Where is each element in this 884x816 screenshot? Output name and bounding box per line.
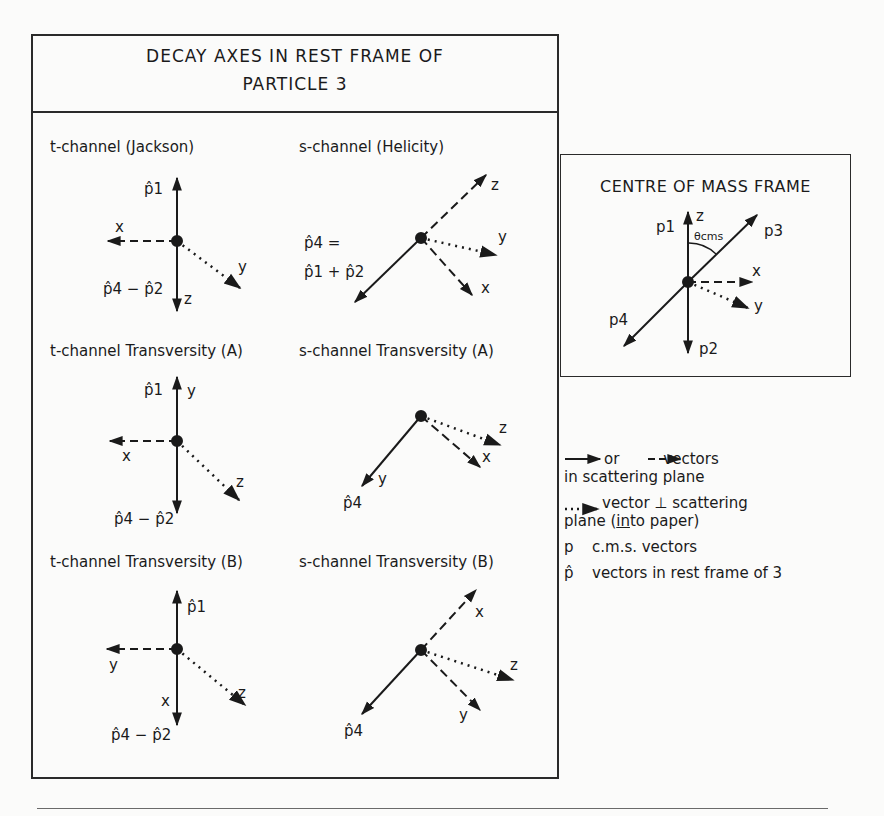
label-x: x bbox=[481, 279, 490, 297]
label-p4-equals: p̂4 = bbox=[304, 234, 340, 252]
label-x: x bbox=[752, 262, 761, 280]
label-z: z bbox=[510, 656, 518, 674]
y-solid-arrow-icon bbox=[362, 416, 421, 486]
p4-solid-arrow-icon bbox=[362, 650, 421, 714]
label-p4: p̂4 bbox=[344, 722, 363, 740]
y-dotted-arrow-icon bbox=[421, 238, 496, 255]
origin-dot-icon bbox=[683, 277, 693, 287]
legend-p-symbol: p bbox=[564, 538, 592, 556]
label-z: z bbox=[696, 207, 704, 225]
legend-vector-perp: vector ⊥ scattering bbox=[602, 494, 748, 512]
x-dashed-arrow-icon bbox=[421, 416, 480, 467]
label-z: z bbox=[491, 176, 499, 194]
legend-rest-frame-vectors: vectors in rest frame of 3 bbox=[592, 564, 782, 582]
label-y: y bbox=[378, 470, 387, 488]
cm-axes bbox=[624, 212, 757, 353]
label-p4: p4 bbox=[609, 311, 628, 329]
label-x: x bbox=[482, 448, 491, 466]
label-p1-plus-p2: p̂1 + p̂2 bbox=[304, 263, 364, 281]
label-p1: p̂1 bbox=[144, 381, 163, 399]
y-dotted-arrow-icon bbox=[177, 241, 240, 288]
t-transversity-b-axes bbox=[107, 591, 245, 725]
legend-in-underlined: in bbox=[616, 512, 630, 530]
x-dashed-arrow-icon bbox=[421, 238, 472, 295]
z-dotted-arrow-icon bbox=[421, 416, 500, 445]
s-helicity-axes bbox=[355, 175, 496, 302]
bottom-rule bbox=[37, 808, 828, 809]
y-dotted-arrow-icon bbox=[688, 282, 748, 308]
legend-plane-pre: plane ( bbox=[564, 512, 616, 530]
label-p2: p2 bbox=[699, 340, 718, 358]
legend-row-rest-frame: p̂vectors in rest frame of 3 bbox=[564, 564, 864, 582]
y-dashed-arrow-icon bbox=[421, 650, 480, 710]
origin-dot-icon bbox=[416, 233, 426, 243]
s-transversity-b-axes bbox=[362, 590, 513, 714]
label-p1: p̂1 bbox=[187, 598, 206, 616]
legend-plane-post: to paper) bbox=[630, 512, 699, 530]
p4-solid-arrow-icon bbox=[355, 238, 421, 302]
label-p4-minus-p2: p̂4 − p̂2 bbox=[111, 726, 171, 744]
z-dotted-arrow-icon bbox=[177, 441, 239, 500]
label-p4-minus-p2: p̂4 − p̂2 bbox=[103, 280, 163, 298]
label-z: z bbox=[499, 419, 507, 437]
z-dotted-arrow-icon bbox=[177, 649, 245, 705]
label-x: x bbox=[122, 447, 131, 465]
legend-phat-symbol: p̂ bbox=[564, 564, 592, 582]
label-p4: p̂4 bbox=[343, 494, 362, 512]
origin-dot-icon bbox=[172, 436, 182, 446]
label-p3: p3 bbox=[764, 222, 783, 240]
p3-arrow-icon bbox=[688, 215, 757, 282]
t-transversity-a-axes bbox=[110, 377, 239, 513]
origin-dot-icon bbox=[172, 644, 182, 654]
label-p4-minus-p2: p̂4 − p̂2 bbox=[114, 510, 174, 528]
label-x: x bbox=[161, 692, 170, 710]
label-z: z bbox=[184, 290, 192, 308]
legend-in-scattering-plane: in scattering plane bbox=[564, 468, 704, 486]
label-y: y bbox=[109, 656, 118, 674]
label-y: y bbox=[238, 258, 247, 276]
label-theta-cms: θcms bbox=[694, 230, 723, 243]
legend-or: or bbox=[604, 450, 619, 468]
label-y: y bbox=[187, 382, 196, 400]
label-y: y bbox=[754, 297, 763, 315]
label-y: y bbox=[498, 228, 507, 246]
origin-dot-icon bbox=[416, 645, 426, 655]
label-x: x bbox=[475, 603, 484, 621]
legend-row-cms: pc.m.s. vectors bbox=[564, 538, 864, 556]
legend-vectors: vectors bbox=[663, 450, 718, 468]
p4-arrow-icon bbox=[624, 282, 688, 346]
legend-row-in-plane: orvectors in scattering plane bbox=[564, 450, 864, 486]
vector-diagrams: p̂1 x y z p̂4 − p̂2 z y x p̂4 = p̂1 + p̂… bbox=[0, 0, 884, 816]
x-dashed-arrow-icon bbox=[421, 590, 476, 650]
legend-cms-vectors: c.m.s. vectors bbox=[592, 538, 697, 556]
legend-row-perpendicular: vector ⊥ scattering plane (into paper) bbox=[564, 494, 864, 530]
origin-dot-icon bbox=[172, 236, 182, 246]
label-x: x bbox=[115, 218, 124, 236]
label-z: z bbox=[236, 473, 244, 491]
z-dashed-arrow-icon bbox=[421, 175, 486, 238]
label-p1: p̂1 bbox=[144, 180, 163, 198]
label-z: z bbox=[238, 684, 246, 702]
origin-dot-icon bbox=[416, 411, 426, 421]
label-y: y bbox=[459, 706, 468, 724]
theta-cms-arc-icon bbox=[688, 243, 716, 254]
legend: orvectors in scattering plane vector ⊥ s… bbox=[564, 450, 864, 590]
label-p1: p1 bbox=[656, 218, 675, 236]
